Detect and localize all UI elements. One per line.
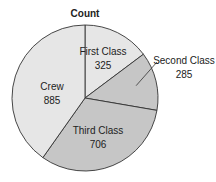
third-class-value: 706 (90, 139, 107, 150)
first-class-name: First Class (79, 46, 126, 57)
crew-value: 885 (44, 95, 61, 106)
second-class-name: Second Class (153, 55, 215, 66)
first-class-value: 325 (95, 60, 112, 71)
slice-label-second-class: Second Class 285 (153, 55, 215, 80)
pie-chart: Count First Class 325 Second Class 285 T… (0, 0, 216, 182)
third-class-name: Third Class (73, 125, 124, 136)
pie-chart-svg: Count First Class 325 Second Class 285 T… (0, 0, 216, 182)
crew-name: Crew (40, 81, 64, 92)
chart-title: Count (71, 8, 101, 19)
second-class-value: 285 (176, 69, 193, 80)
